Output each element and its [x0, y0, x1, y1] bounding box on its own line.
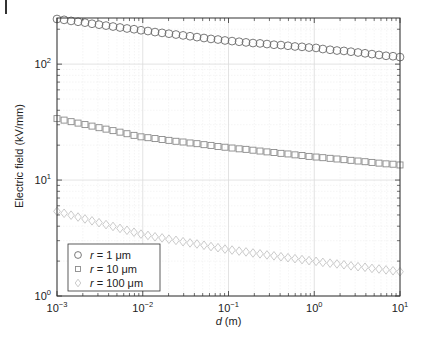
legend: r = 1 μmr = 10 μmr = 100 μm	[68, 244, 160, 291]
x-tick-label: 10−2	[132, 300, 153, 314]
x-axis-label: d (m)	[216, 315, 242, 327]
legend-label: r = 1 μm	[90, 249, 131, 261]
legend-label: r = 10 μm	[90, 263, 137, 275]
y-axis-tick-labels: 100101102	[35, 56, 51, 302]
y-axis-label: Electric field (kV/mm)	[13, 104, 25, 208]
y-tick-label: 102	[35, 56, 51, 70]
x-tick-label: 10−1	[218, 300, 239, 314]
log-log-scatter-chart: 10−310−210−1100101 100101102 d (m) Elect…	[0, 0, 421, 341]
y-tick-label: 101	[35, 172, 51, 186]
x-tick-label: 100	[306, 300, 322, 314]
x-tick-label: 101	[392, 300, 408, 314]
legend-label: r = 100 μm	[90, 277, 143, 289]
x-axis-tick-labels: 10−310−210−1100101	[47, 300, 409, 314]
y-tick-label: 100	[35, 288, 51, 302]
x-tick-label: 10−3	[47, 300, 68, 314]
